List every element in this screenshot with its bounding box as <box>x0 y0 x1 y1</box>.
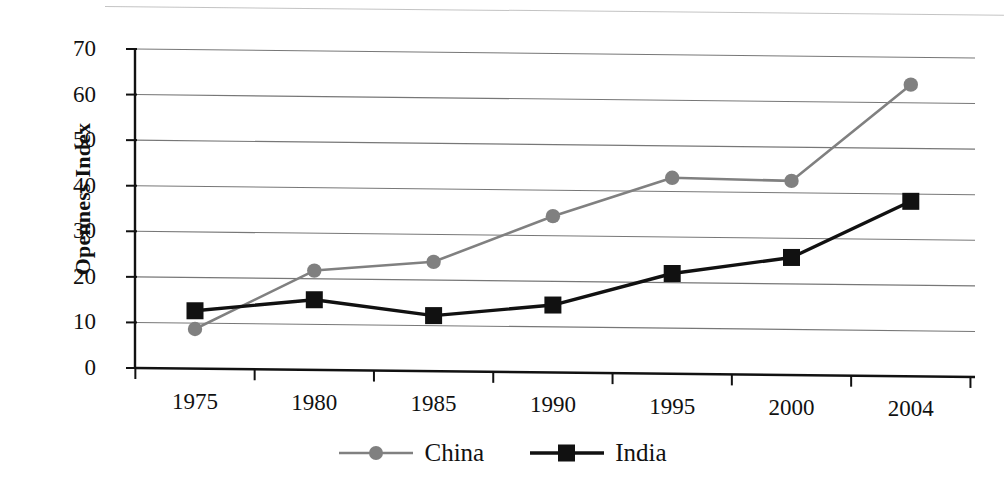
gridline <box>135 322 975 331</box>
data-point-china-1990 <box>546 209 560 223</box>
x-tick-label: 1980 <box>254 390 374 416</box>
data-point-china-2000 <box>784 174 798 188</box>
x-tick-label: 1990 <box>493 392 613 418</box>
scan-artifact-line <box>105 6 1004 16</box>
x-tick-label: 2000 <box>732 395 852 421</box>
circle-marker-icon <box>337 442 415 464</box>
y-tick-label: 40 <box>50 174 96 197</box>
legend-label: India <box>615 440 666 465</box>
axis-baseline <box>135 368 975 377</box>
x-tick-label: 1995 <box>612 394 732 420</box>
y-tick-label: 50 <box>50 128 96 151</box>
data-point-china-1975 <box>188 322 202 336</box>
data-point-china-1980 <box>307 263 321 277</box>
y-tick-label: 60 <box>50 83 96 106</box>
data-point-india-1975 <box>187 302 204 319</box>
x-tick-label: 1985 <box>374 391 494 417</box>
data-point-china-2004 <box>904 77 918 91</box>
gridline <box>135 277 975 286</box>
square-marker-icon <box>528 442 606 464</box>
gridline <box>135 186 975 195</box>
chart-legend: ChinaIndia <box>0 440 1004 465</box>
gridline <box>135 231 975 240</box>
plot-area <box>135 40 975 380</box>
data-point-india-1990 <box>544 297 561 314</box>
gridline <box>135 140 975 149</box>
data-point-india-1995 <box>664 265 681 282</box>
y-tick-label: 30 <box>50 219 96 242</box>
data-point-india-2004 <box>902 193 919 210</box>
data-point-china-1985 <box>426 255 440 269</box>
data-point-india-2000 <box>783 249 800 266</box>
legend-entry-china[interactable]: China <box>337 440 484 465</box>
y-tick-label: 0 <box>50 356 96 379</box>
gridline <box>135 49 975 58</box>
data-point-china-1995 <box>665 171 679 185</box>
series-line-china <box>195 85 911 329</box>
data-point-india-1980 <box>306 291 323 308</box>
y-tick-label: 20 <box>50 265 96 288</box>
gridline <box>135 95 975 104</box>
x-tick-label: 1975 <box>135 389 255 415</box>
y-axis-tick-labels: 010203040506070 <box>50 0 96 498</box>
chart-figure: Openness Index 010203040506070 197519801… <box>0 0 1004 498</box>
x-tick-label: 2004 <box>851 396 971 422</box>
y-tick-label: 70 <box>50 37 96 60</box>
legend-label: China <box>424 440 484 465</box>
data-point-india-1985 <box>425 307 442 324</box>
plot-svg <box>135 40 975 380</box>
y-tick-label: 10 <box>50 310 96 333</box>
legend-entry-india[interactable]: India <box>528 440 666 465</box>
